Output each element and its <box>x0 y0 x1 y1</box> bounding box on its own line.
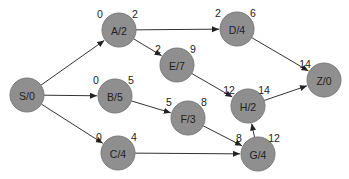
node-e: E/729 <box>155 43 196 82</box>
early-start-label: 0 <box>97 8 103 20</box>
node-label: B/5 <box>107 91 123 103</box>
early-finish-label: 9 <box>190 43 196 55</box>
node-c: C/404 <box>96 131 137 170</box>
node-f: F/358 <box>166 96 207 135</box>
early-start-label: 2 <box>155 43 161 55</box>
node-g: G/4812 <box>236 132 280 171</box>
early-finish-label: 14 <box>258 84 270 96</box>
edge-s-b <box>44 95 97 96</box>
node-label: C/4 <box>110 148 127 160</box>
node-b: B/505 <box>93 74 134 113</box>
node-label: Z/0 <box>316 75 331 87</box>
edge-g-h <box>252 124 255 138</box>
early-start-label: 0 <box>93 74 99 86</box>
early-start-label: 8 <box>236 132 242 144</box>
early-start-label: 2 <box>215 7 221 19</box>
node-label: D/4 <box>229 24 246 36</box>
node-h: H/21214 <box>223 84 270 123</box>
early-finish-label: 12 <box>268 132 280 144</box>
node-label: S/0 <box>19 90 35 102</box>
nodes-layer: S/0A/202B/505C/404D/426E/729F/358H/21214… <box>10 7 341 171</box>
edge-h-z <box>264 86 307 101</box>
network-diagram: S/0A/202B/505C/404D/426E/729F/358H/21214… <box>0 0 349 179</box>
early-finish-label: 6 <box>250 7 256 19</box>
edge-s-c <box>41 104 102 143</box>
early-start-label: 0 <box>96 131 102 143</box>
node-label: F/3 <box>180 113 195 125</box>
node-label: H/2 <box>240 101 257 113</box>
edge-b-f <box>131 101 170 113</box>
edge-c-g <box>135 153 240 154</box>
early-finish-label: 4 <box>131 131 137 143</box>
early-finish-label: 5 <box>128 74 134 86</box>
node-s: S/0 <box>10 78 44 112</box>
node-label: E/7 <box>169 60 185 72</box>
early-finish-label: 8 <box>201 96 207 108</box>
node-label: G/4 <box>250 149 267 161</box>
diagram-canvas: S/0A/202B/505C/404D/426E/729F/358H/21214… <box>0 0 349 179</box>
node-z: Z/014 <box>299 58 341 97</box>
early-finish-label: 2 <box>132 8 138 20</box>
early-start-label: 5 <box>166 96 172 108</box>
node-label: A/2 <box>111 25 127 37</box>
node-d: D/426 <box>215 7 256 46</box>
early-start-label: 14 <box>299 58 311 70</box>
early-start-label: 12 <box>223 84 235 96</box>
edge-a-d <box>136 29 219 30</box>
